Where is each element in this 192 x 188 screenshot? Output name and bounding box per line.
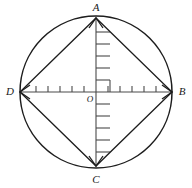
vertex-label-b: B	[179, 85, 186, 97]
vertex-label-a: A	[92, 1, 100, 13]
vertical-ticks-upper	[96, 32, 110, 92]
vertex-label-c: C	[92, 173, 100, 185]
geometry-figure: A B C D O	[0, 0, 192, 188]
origin-label-o: O	[87, 94, 94, 104]
figure-canvas: A B C D O	[0, 0, 192, 188]
vertex-label-d: D	[5, 85, 14, 97]
horizontal-ticks-right	[108, 86, 156, 92]
vertical-ticks-lower	[96, 104, 110, 152]
horizontal-ticks-left	[36, 86, 84, 92]
